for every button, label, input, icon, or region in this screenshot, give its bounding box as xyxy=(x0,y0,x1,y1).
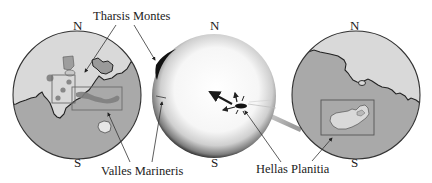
argyre-patch xyxy=(98,121,111,133)
volcano-dot xyxy=(66,79,71,84)
center-south-label: S xyxy=(211,156,218,169)
small-patch xyxy=(359,81,366,86)
olympus-patch xyxy=(63,56,74,70)
center-north-label: N xyxy=(210,19,219,32)
volcano-dot xyxy=(55,95,60,100)
label-hellas-planitia: Hellas Planitia xyxy=(256,163,329,176)
label-valles-marineris: Valles Marineris xyxy=(101,165,183,178)
left-north-label: N xyxy=(73,19,82,32)
left-south-label: S xyxy=(74,156,81,169)
tharsis-leader-center xyxy=(134,25,155,60)
left-globe xyxy=(10,28,145,163)
right-north-label: N xyxy=(350,19,359,32)
impact-site xyxy=(235,103,247,108)
volcano-dot xyxy=(47,75,54,82)
right-globe xyxy=(290,28,425,163)
center-globe xyxy=(152,34,302,158)
volcano-dot xyxy=(60,87,65,92)
right-south-label: S xyxy=(351,156,358,169)
label-tharsis-montes: Tharsis Montes xyxy=(93,10,170,23)
